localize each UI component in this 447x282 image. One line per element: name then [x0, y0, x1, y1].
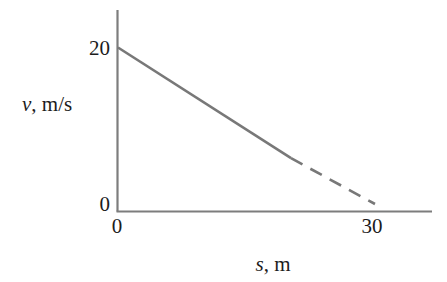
y-axis-title-variable: v	[22, 92, 31, 116]
y-axis-tick-0: 0	[58, 194, 110, 215]
x-axis-title-unit: m	[274, 252, 290, 276]
y-axis-title-unit: m/s	[42, 92, 72, 116]
y-axis-title: v, m/s	[22, 94, 108, 115]
data-line-solid	[118, 48, 291, 159]
x-axis-title: s, m	[238, 254, 308, 275]
x-axis-title-separator: ,	[264, 252, 275, 276]
x-axis-title-variable: s	[255, 252, 263, 276]
chart-figure: 20 0 0 30 v, m/s s, m	[0, 0, 447, 282]
y-axis-title-separator: ,	[31, 92, 42, 116]
x-axis-tick-30: 30	[348, 216, 396, 237]
y-axis-tick-20: 20	[58, 38, 110, 59]
data-line-dashed	[291, 158, 375, 204]
x-axis-tick-0: 0	[97, 216, 137, 237]
